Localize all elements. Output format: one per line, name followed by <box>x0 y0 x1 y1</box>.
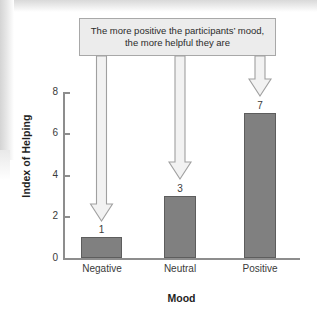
y-tick-label-8: 8 <box>44 87 58 97</box>
category-label-neutral: Neutral <box>150 263 210 275</box>
bar-neutral <box>164 196 196 258</box>
y-tick-label-6: 6 <box>44 128 58 138</box>
arrow-to-neutral-bar <box>169 56 191 179</box>
x-axis-title: Mood <box>63 292 300 304</box>
y-tick-8 <box>64 92 70 94</box>
bar-value-positive: 7 <box>244 100 276 111</box>
category-label-negative: Negative <box>70 263 134 275</box>
y-tick-0 <box>64 258 70 260</box>
arrow-to-negative-bar <box>91 56 113 221</box>
arrow-to-positive-bar <box>249 56 271 96</box>
y-tick-2 <box>64 216 70 218</box>
bar-value-negative: 1 <box>81 224 122 235</box>
plot-area: 8 6 4 2 0 Index of Helping 1 3 7 Negativ… <box>0 0 317 314</box>
bar-positive <box>244 113 276 258</box>
y-axis-title: Index of Helping <box>20 101 32 211</box>
callout-text: The more positive the participants’ mood… <box>80 25 275 50</box>
y-tick-6 <box>64 133 70 135</box>
bar-chart-figure: 8 6 4 2 0 Index of Helping 1 3 7 Negativ… <box>0 0 317 314</box>
callout-box: The more positive the participants’ mood… <box>79 18 276 56</box>
bar-negative <box>81 237 122 258</box>
category-label-positive: Positive <box>231 263 289 275</box>
bar-value-neutral: 3 <box>164 183 196 194</box>
y-tick-label-4: 4 <box>44 170 58 180</box>
y-tick-label-0: 0 <box>44 253 58 263</box>
y-tick-4 <box>64 175 70 177</box>
x-axis-line <box>63 258 300 260</box>
y-tick-label-2: 2 <box>44 211 58 221</box>
